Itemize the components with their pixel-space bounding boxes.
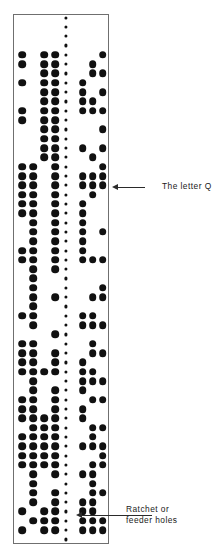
data-hole — [51, 200, 59, 208]
data-hole — [79, 442, 87, 450]
data-hole — [29, 247, 37, 255]
data-hole — [51, 424, 59, 432]
data-hole — [51, 98, 59, 106]
data-hole — [79, 228, 87, 236]
data-hole — [79, 368, 87, 376]
data-hole — [79, 498, 87, 506]
data-hole — [99, 144, 107, 152]
data-hole — [18, 209, 26, 217]
data-hole — [18, 116, 26, 124]
data-hole — [89, 293, 97, 301]
data-hole — [18, 433, 26, 441]
data-hole — [29, 498, 37, 506]
data-hole — [40, 461, 48, 469]
data-hole — [29, 349, 37, 357]
data-hole — [29, 452, 37, 460]
data-hole — [79, 219, 87, 227]
data-hole — [18, 191, 26, 199]
data-hole — [29, 191, 37, 199]
data-hole — [51, 517, 59, 525]
data-hole — [40, 154, 48, 162]
data-hole — [99, 163, 107, 171]
data-hole — [18, 181, 26, 189]
data-hole — [99, 107, 107, 115]
data-hole — [29, 480, 37, 488]
data-hole — [89, 191, 97, 199]
data-hole — [18, 51, 26, 59]
data-hole — [29, 517, 37, 525]
data-hole — [40, 424, 48, 432]
data-hole — [51, 396, 59, 404]
data-hole — [29, 293, 37, 301]
data-hole — [18, 256, 26, 264]
data-hole — [29, 181, 37, 189]
data-hole — [40, 414, 48, 422]
data-hole — [79, 312, 87, 320]
data-hole — [51, 51, 59, 59]
data-hole — [99, 126, 107, 134]
data-hole — [29, 368, 37, 376]
data-hole — [18, 396, 26, 404]
data-hole — [51, 144, 59, 152]
data-hole — [51, 237, 59, 245]
data-hole — [79, 359, 87, 367]
data-hole — [89, 60, 97, 68]
data-hole — [51, 489, 59, 497]
data-hole — [29, 340, 37, 348]
data-hole — [29, 172, 37, 180]
data-hole — [40, 433, 48, 441]
annotation-feeder-holes-line2: feeder holes — [126, 515, 178, 525]
data-hole — [79, 107, 87, 115]
data-hole — [99, 172, 107, 180]
data-hole — [89, 461, 97, 469]
data-hole — [89, 312, 97, 320]
data-hole — [40, 70, 48, 78]
data-hole — [29, 200, 37, 208]
data-hole — [51, 433, 59, 441]
data-hole — [18, 359, 26, 367]
data-hole — [89, 321, 97, 329]
data-hole — [51, 116, 59, 124]
data-hole — [40, 98, 48, 106]
data-hole — [51, 126, 59, 134]
data-hole — [79, 405, 87, 413]
data-hole — [29, 461, 37, 469]
data-hole — [89, 396, 97, 404]
data-hole — [79, 172, 87, 180]
data-hole — [89, 433, 97, 441]
data-hole — [29, 387, 37, 395]
data-hole — [89, 181, 97, 189]
data-hole — [51, 88, 59, 96]
data-hole — [51, 526, 59, 534]
data-hole — [18, 340, 26, 348]
annotation-arrowhead-icon — [76, 512, 82, 518]
data-hole — [79, 237, 87, 245]
data-hole — [51, 387, 59, 395]
data-hole — [89, 470, 97, 478]
data-hole — [40, 368, 48, 376]
data-hole — [40, 442, 48, 450]
data-hole — [79, 377, 87, 385]
data-hole — [51, 154, 59, 162]
data-hole — [51, 265, 59, 273]
data-hole — [29, 219, 37, 227]
data-hole — [51, 60, 59, 68]
data-hole — [51, 181, 59, 189]
data-hole — [99, 461, 107, 469]
data-hole — [99, 284, 107, 292]
data-hole — [51, 508, 59, 516]
data-hole — [79, 98, 87, 106]
data-hole — [89, 442, 97, 450]
tape-bottom-edge — [13, 543, 109, 544]
data-hole — [89, 154, 97, 162]
data-hole — [99, 181, 107, 189]
data-hole — [79, 200, 87, 208]
data-hole — [89, 172, 97, 180]
data-hole — [99, 293, 107, 301]
data-hole — [99, 70, 107, 78]
data-hole — [99, 51, 107, 59]
data-hole — [18, 368, 26, 376]
data-hole — [79, 470, 87, 478]
data-hole — [18, 172, 26, 180]
data-hole — [51, 331, 59, 339]
